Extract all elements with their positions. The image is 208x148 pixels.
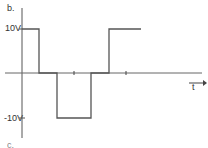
t-arrow-head-icon	[203, 80, 207, 86]
waveform-plot	[0, 0, 208, 148]
